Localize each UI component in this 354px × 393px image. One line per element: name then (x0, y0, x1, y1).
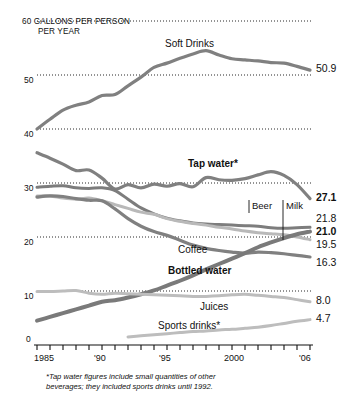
chart-plot-area (0, 0, 354, 393)
x-axis-tick-label: '90 (94, 353, 106, 363)
y-axis-tick-label: 20 (24, 238, 33, 248)
y-axis-tick-label: 10 (24, 292, 33, 302)
y-axis-tick-label: 0 (26, 335, 31, 345)
y-axis-tick-label: 30 (24, 184, 33, 194)
series-line-soft-drinks (37, 51, 310, 129)
x-axis-tick-label: 1985 (34, 353, 54, 363)
callout-label-beer: Beer (252, 201, 272, 212)
unit-label-line1: 60 GALLONS PER PERSON (22, 17, 130, 26)
end-value-milk: 19.5 (316, 239, 336, 251)
end-value-tap-water: 27.1 (316, 192, 336, 204)
y-axis-tick-label: 50 (24, 76, 33, 86)
end-value-coffee: 16.3 (316, 257, 336, 269)
end-value-bottled-water: 21.0 (316, 226, 336, 238)
callout-label-milk: Milk (286, 201, 303, 212)
series-label-soft-drinks: Soft Drinks (165, 38, 214, 49)
series-label-bottled-water: Bottled water (168, 265, 231, 276)
footnote-line1: *Tap water figures include small quantit… (46, 372, 215, 382)
x-axis-tick-label: '95 (159, 353, 171, 363)
end-value-juices: 8.0 (316, 295, 331, 307)
end-value-beer: 21.8 (316, 213, 336, 225)
x-axis-tick-label: 2000 (224, 353, 244, 363)
series-label-juices: Juices (200, 301, 228, 312)
footnote-line2: beverages; they included sports drinks u… (46, 382, 213, 392)
series-label-coffee: Coffee (178, 244, 207, 255)
series-label-sports-drinks: Sports drinks* (158, 320, 220, 331)
unit-label-line2: PER YEAR (38, 27, 80, 36)
series-line-tap-water (37, 153, 310, 199)
end-value-soft-drinks: 50.9 (316, 63, 336, 75)
series-label-tap-water: Tap water* (188, 158, 238, 169)
x-axis-tick-label: '06 (299, 353, 311, 363)
beverage-consumption-chart: 60 GALLONS PER PERSON PER YEAR *Tap wate… (0, 0, 354, 393)
end-value-sports-drinks: 4.7 (316, 313, 331, 325)
series-line-juices (37, 290, 310, 301)
y-axis-tick-label: 40 (24, 130, 33, 140)
